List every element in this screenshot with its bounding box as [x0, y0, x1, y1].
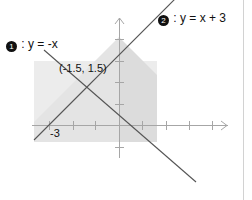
line-1-equation: y = -x: [28, 37, 58, 51]
line-2-separator: :: [170, 11, 180, 25]
line-1-label: 1 : y = -x: [6, 38, 58, 52]
coordinate-plane: [0, 0, 252, 200]
line-2-label: 2 : y = x + 3: [158, 12, 226, 26]
shaded-region-dark: [119, 37, 157, 142]
graph-figure: 1 : y = -x 2 : y = x + 3 (-1.5, 1.5) -3: [0, 0, 252, 200]
x-intercept-label: -3: [50, 128, 60, 139]
line-2-equation: y = x + 3: [180, 11, 226, 25]
intersection-point-label: (-1.5, 1.5): [59, 63, 107, 74]
line-1-separator: :: [18, 37, 28, 51]
line-1-badge: 1: [6, 41, 17, 52]
line-2-badge: 2: [158, 15, 169, 26]
